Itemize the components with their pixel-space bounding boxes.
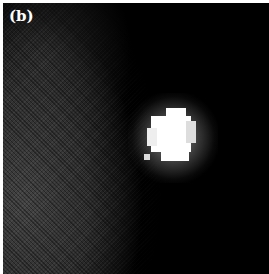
bright-spot-bottom xyxy=(161,143,189,161)
panel-label: (b) xyxy=(9,7,34,25)
small-bright-dot xyxy=(144,154,150,160)
bright-spot-right xyxy=(186,121,196,143)
bright-spot-left xyxy=(147,128,157,146)
image-panel: (b) xyxy=(3,3,269,274)
bright-spot-top xyxy=(166,108,186,118)
